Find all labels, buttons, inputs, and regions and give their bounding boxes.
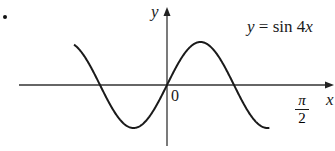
origin-label: 0 (171, 87, 179, 105)
function-label-y: y (247, 17, 255, 36)
x-axis-arrow-icon (325, 82, 334, 89)
y-axis-label: y (151, 2, 159, 22)
pi-over-2-tick-label: π 2 (294, 93, 310, 126)
tick-denominator: 2 (294, 111, 310, 126)
tick-numerator: π (294, 93, 310, 108)
function-label-rest: = sin 4 (255, 17, 306, 36)
y-axis-arrow-icon (164, 7, 171, 16)
x-axis-label: x (326, 90, 334, 110)
function-label-x: x (305, 17, 313, 36)
function-label: y = sin 4x (247, 17, 313, 37)
